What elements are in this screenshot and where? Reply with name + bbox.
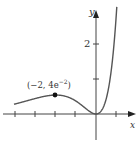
x-axis-arrow-icon	[128, 111, 136, 117]
point-annotation-base: (−2, 4e	[27, 80, 59, 90]
point-annotation-close: )	[68, 80, 71, 90]
point-annotation: (−2, 4e−2)	[27, 78, 71, 90]
y-tick-label-2: 2	[84, 38, 90, 49]
plot-area	[0, 0, 140, 143]
x-axis-label: x	[130, 120, 135, 130]
curve-x2-ex	[14, 7, 117, 114]
point-annotation-exponent: −2	[59, 78, 68, 85]
y-axis-label: y	[89, 6, 95, 17]
critical-point-marker	[53, 93, 58, 98]
chart: y x 2 (−2, 4e−2)	[0, 0, 140, 143]
